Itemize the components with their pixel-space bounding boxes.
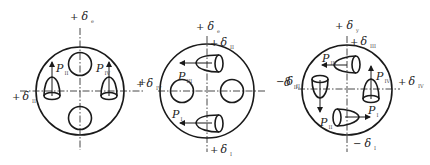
label-top: +δe: [70, 10, 94, 24]
label-p-left: PII: [319, 116, 332, 130]
panel-3: +δy +δIII δII +δIV −δI PIII PIV PII PI: [284, 19, 424, 152]
nozzle-bottom: [333, 109, 370, 126]
figure: +δe +δII + PII PIV +δe +δII +δIV −δII +δ…: [0, 0, 430, 165]
nozzle-lower: [180, 115, 223, 132]
nozzle-upper: [180, 55, 223, 72]
label-top: +δy: [335, 19, 359, 34]
label-p-lower: PI: [171, 108, 182, 122]
label-bottom: −δI: [353, 137, 376, 151]
panel-2: +δe +δII +δIV −δII +δI PIII PI: [136, 20, 300, 157]
label-top: +δe: [196, 20, 220, 34]
label-p-top: PIII: [321, 52, 336, 66]
panel-1: +δe +δII + PII PIV: [12, 10, 146, 150]
label-left: +δIV: [136, 77, 162, 91]
nozzle-left: [312, 76, 328, 113]
label-p-bottom: PI: [367, 104, 378, 118]
label-p-left: PII: [55, 62, 68, 76]
label-p-right: PIV: [95, 62, 110, 76]
label-left: +δII: [12, 90, 36, 104]
label-bottom: +δI: [210, 143, 232, 157]
label-p-upper: PIII: [177, 70, 192, 84]
label-top-2: +δII: [210, 36, 234, 50]
label-top-2: +δIII: [350, 35, 376, 49]
label-right: +δIV: [398, 75, 424, 89]
